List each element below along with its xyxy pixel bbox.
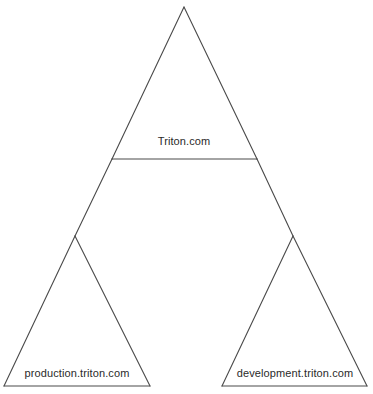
production-domain-triangle bbox=[4, 236, 150, 386]
tree-branch-left bbox=[75, 159, 112, 236]
development-domain-label: development.triton.com bbox=[237, 367, 354, 379]
diagram-canvas bbox=[0, 0, 373, 394]
tree-branch-right bbox=[257, 159, 293, 236]
root-domain-label: Triton.com bbox=[158, 135, 211, 147]
production-domain-label: production.triton.com bbox=[25, 367, 130, 379]
development-domain-triangle bbox=[222, 236, 367, 386]
